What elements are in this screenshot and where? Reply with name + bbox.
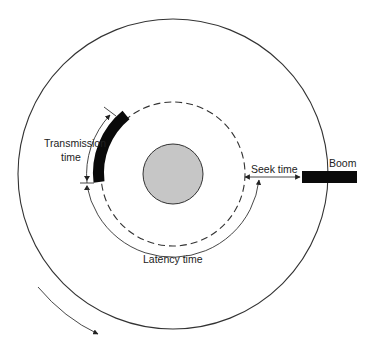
transmission-label-line2: time (61, 151, 81, 163)
rotation-arrow (38, 287, 98, 334)
seek-time-label: Seek time (251, 163, 298, 175)
disk-diagram: Transmission time Seek time Boom Latency… (0, 0, 378, 358)
disk-hub (143, 144, 203, 204)
transmission-top-tick (104, 107, 116, 116)
latency-time-label: Latency time (143, 253, 203, 265)
transmission-label-line1: Transmission (44, 137, 106, 149)
boom (302, 171, 357, 183)
boom-label: Boom (329, 157, 357, 169)
